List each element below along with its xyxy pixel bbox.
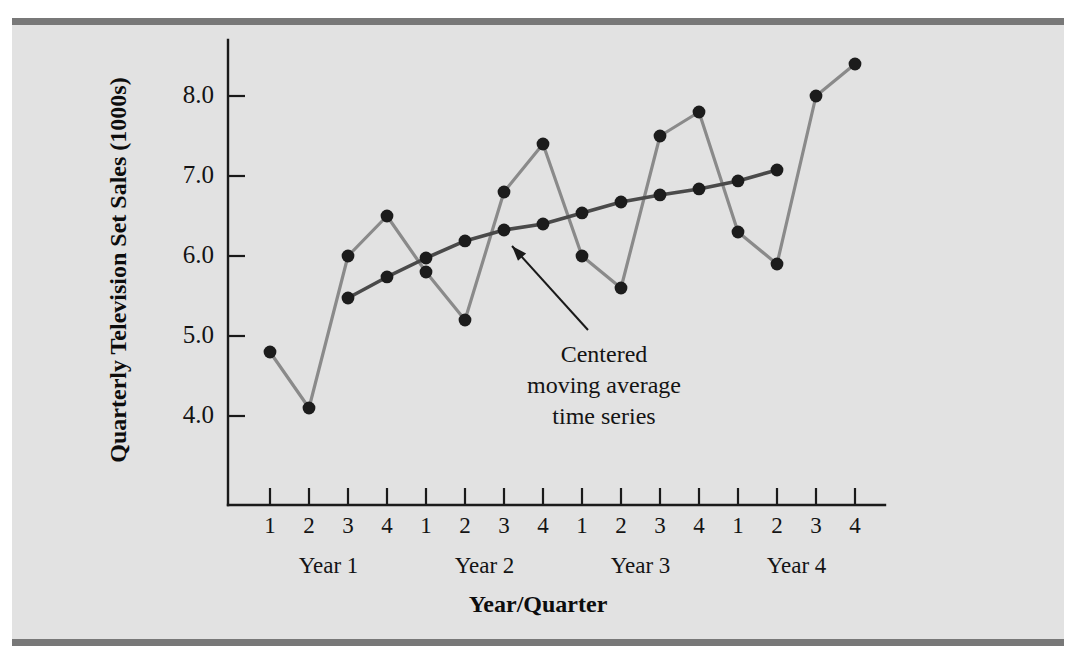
x-tick-label: 4 (537, 513, 549, 538)
y-tick-label: 8.0 (183, 81, 214, 108)
x-tick-label: 4 (693, 513, 705, 538)
x-tick-label: 3 (342, 513, 354, 538)
data-point-marker (615, 196, 628, 209)
x-axis-ticks (270, 488, 855, 505)
data-point-marker (654, 189, 667, 202)
y-tick-label: 7.0 (183, 161, 214, 188)
data-point-marker (420, 252, 433, 265)
x-tick-label: 2 (771, 513, 783, 538)
data-point-marker (381, 210, 394, 223)
x-tick-label: 4 (381, 513, 393, 538)
data-point-marker (810, 90, 823, 103)
annotation-text-line: time series (552, 403, 655, 429)
data-point-marker (459, 235, 472, 248)
x-tick-label: 4 (849, 513, 861, 538)
y-tick-label: 6.0 (183, 241, 214, 268)
data-point-marker (693, 106, 706, 119)
x-tick-label: 1 (264, 513, 276, 538)
data-point-marker (615, 282, 628, 295)
data-point-marker (381, 271, 394, 284)
x-tick-label: 3 (654, 513, 666, 538)
data-point-marker (537, 138, 550, 151)
x-tick-label: 1 (732, 513, 744, 538)
x-tick-label: 1 (420, 513, 432, 538)
data-point-marker (771, 258, 784, 271)
x-axis-group-label: Year 4 (767, 553, 827, 578)
series-line (348, 170, 777, 298)
y-tick-label: 5.0 (183, 321, 214, 348)
data-point-marker (576, 207, 589, 220)
data-point-marker (576, 250, 589, 263)
data-point-marker (303, 402, 316, 415)
data-point-marker (498, 186, 511, 199)
data-point-marker (342, 292, 355, 305)
x-axis-group-label: Year 3 (611, 553, 671, 578)
x-tick-label: 3 (810, 513, 822, 538)
data-point-marker (732, 226, 745, 239)
data-point-marker (498, 224, 511, 237)
data-point-marker (537, 218, 550, 231)
x-axis-group-label: Year 2 (455, 553, 515, 578)
x-tick-label: 2 (615, 513, 627, 538)
data-point-marker (732, 175, 745, 188)
x-axis-group-label: Year 1 (299, 553, 359, 578)
figure-container: 4.05.06.07.08.0 1234123412341234 Year 1Y… (0, 0, 1076, 668)
data-point-marker (771, 164, 784, 177)
x-axis-tick-labels: 1234123412341234 (264, 513, 861, 538)
data-point-marker (420, 266, 433, 279)
annotation-text-line: moving average (527, 372, 681, 398)
y-tick-label: 4.0 (183, 401, 214, 428)
data-point-marker (342, 250, 355, 263)
x-tick-label: 3 (498, 513, 510, 538)
y-axis-ticks: 4.05.06.07.08.0 (183, 81, 245, 428)
x-axis-title: Year/Quarter (469, 591, 608, 617)
x-tick-label: 2 (303, 513, 315, 538)
x-tick-label: 2 (459, 513, 471, 538)
x-tick-label: 1 (576, 513, 588, 538)
axes (228, 40, 885, 505)
chart-annotations: Centeredmoving averagetime series (512, 246, 681, 429)
data-point-marker (693, 183, 706, 196)
annotation-text-line: Centered (561, 341, 648, 367)
y-axis-title: Quarterly Television Set Sales (1000s) (105, 77, 131, 462)
data-point-marker (849, 58, 862, 71)
chart-plot: 4.05.06.07.08.0 1234123412341234 Year 1Y… (0, 0, 1076, 668)
data-point-marker (654, 130, 667, 143)
data-point-marker (459, 314, 472, 327)
data-point-marker (264, 346, 277, 359)
x-axis-group-labels: Year 1Year 2Year 3Year 4 (299, 553, 827, 578)
